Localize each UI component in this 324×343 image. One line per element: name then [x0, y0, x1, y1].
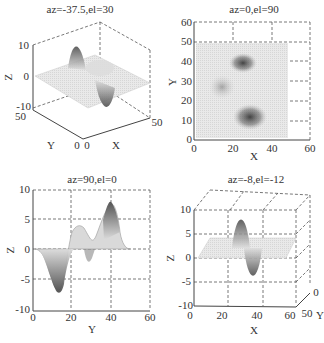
x-tick-label: 0: [84, 139, 90, 151]
z-axis-label: Z: [4, 246, 16, 253]
y-tick-label: 40: [181, 55, 193, 67]
x-tick-label: 60: [285, 309, 297, 321]
grid-line: [194, 190, 210, 210]
z-axis-label: Z: [164, 254, 176, 261]
figure: az=-37.5,el=30 10 0 -10 Z 50 Y 0 0 X 50 …: [0, 0, 324, 343]
y-tick-label: 0: [313, 286, 319, 298]
y-tick-label: 50: [15, 110, 27, 122]
grid-line: [100, 22, 150, 50]
y-tick-label: 20: [66, 311, 78, 323]
subplot-title: az=-37.5,el=30: [47, 3, 114, 15]
z-tick-label: 0: [186, 251, 192, 263]
x-tick-label: 20: [228, 142, 240, 154]
x-tick-label: 40: [267, 142, 279, 154]
z-tick-label: -5: [182, 275, 192, 287]
x-axis-label: X: [250, 324, 258, 336]
y-tick-label: 0: [74, 139, 80, 151]
z-tick-label: 5: [25, 213, 31, 225]
y-tick-label: 60: [181, 16, 193, 28]
y-tick-label: 0: [30, 311, 36, 323]
x-tick-label: 0: [191, 142, 197, 154]
z-tick-label: 0: [24, 70, 30, 82]
x-axis-label: X: [112, 139, 120, 151]
y-tick-label: 50: [181, 35, 193, 47]
y-tick-label: 60: [145, 311, 157, 323]
surface-peak: [68, 47, 86, 71]
grid-line: [33, 22, 100, 45]
surface-bump: [86, 60, 114, 76]
y-axis-label: Y: [166, 78, 178, 86]
y-axis: [296, 293, 310, 307]
subplot-az-37.5-el30: az=-37.5,el=30 10 0 -10 Z 50 Y 0 0 X 50: [2, 3, 163, 151]
subplot-title: az=-8,el=-12: [228, 173, 285, 185]
x-tick-label: 40: [252, 309, 264, 321]
subplot-title: az=0,el=90: [229, 3, 279, 15]
dark-blob: [233, 104, 267, 130]
x-tick-label: 0: [187, 309, 193, 321]
grid-line: [296, 220, 310, 234]
surface-peak: [232, 220, 250, 249]
y-axis-label: Y: [47, 139, 55, 151]
y-axis-label: Y: [88, 323, 96, 335]
surface-trough: [244, 248, 262, 276]
z-tick-label: 10: [180, 203, 192, 215]
grid-line: [296, 268, 310, 282]
x-tick-label: 50: [152, 116, 164, 128]
grid-line: [263, 193, 278, 210]
y-tick-label: 50: [302, 307, 314, 319]
y-axis-label: Y: [316, 309, 324, 321]
surface-trough: [84, 249, 95, 262]
dark-blob: [229, 53, 257, 73]
z-tick-label: 5: [186, 227, 192, 239]
z-tick-label: -10: [15, 303, 30, 315]
x-axis: [83, 118, 150, 139]
x-tick-label: 20: [217, 309, 229, 321]
grid-line: [210, 190, 310, 195]
z-axis-label: Z: [2, 73, 14, 80]
z-tick-label: 10: [18, 39, 30, 51]
subplot-az-8-el-12: az=-8,el=-12 10 5 0 -5 -10 Z 0 20 40: [164, 173, 324, 336]
grid-line: [230, 191, 244, 210]
subplot-title: az=90,el=0: [67, 173, 117, 185]
y-tick-label: 10: [181, 114, 193, 126]
y-tick-label: 20: [181, 94, 193, 106]
z-tick-label: 10: [19, 183, 31, 195]
x-axis: [194, 306, 296, 307]
y-axis: [33, 110, 83, 139]
surface-trough: [40, 249, 74, 293]
light-blob: [209, 75, 235, 99]
z-tick-label: 0: [25, 243, 31, 255]
subplot-az90-el0: az=90,el=0 10 5 0 -5 -10 Z 0 20 40 60 Y: [4, 173, 156, 335]
y-tick-label: 30: [181, 75, 193, 87]
subplot-az0-el90: az=0,el=90 60 50 40 30 20 10 0 Y 0 20 40…: [166, 3, 316, 162]
x-tick-label: 60: [305, 142, 317, 154]
z-tick-label: -5: [21, 273, 31, 285]
grid-line: [296, 195, 310, 210]
x-axis-label: X: [250, 150, 258, 162]
grid-line: [296, 244, 310, 258]
y-tick-label: 40: [106, 311, 118, 323]
